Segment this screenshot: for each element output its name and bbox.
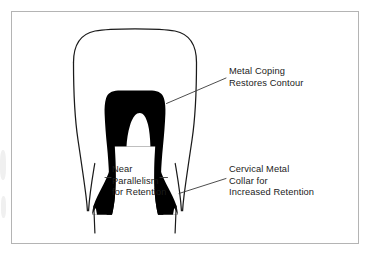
near-parallelism-label-line3: for Retention	[112, 187, 167, 199]
near-parallelism-label: Near Parallelism for Retention	[112, 164, 167, 199]
near-parallelism-label-line2: Parallelism	[112, 176, 167, 188]
full-contour-crown-outline-left	[74, 63, 95, 211]
metal-coping-label: Metal Coping Restores Contour	[229, 66, 303, 89]
cervical-collar-label-line3: Increased Retention	[229, 187, 314, 199]
metal-coping-label-line1: Metal Coping	[229, 66, 303, 78]
cervical-metal-collar-label: Cervical Metal Collar for Increased Rete…	[229, 164, 314, 199]
dental-diagram-canvas	[0, 0, 370, 256]
figure-root: Metal Coping Restores Contour Cervical M…	[0, 0, 370, 256]
metal-coping-label-line2: Restores Contour	[229, 78, 303, 90]
near-parallelism-label-line1: Near	[112, 164, 167, 176]
cervical-collar-label-line2: Collar for	[229, 176, 314, 188]
cervical-collar-label-line1: Cervical Metal	[229, 164, 314, 176]
